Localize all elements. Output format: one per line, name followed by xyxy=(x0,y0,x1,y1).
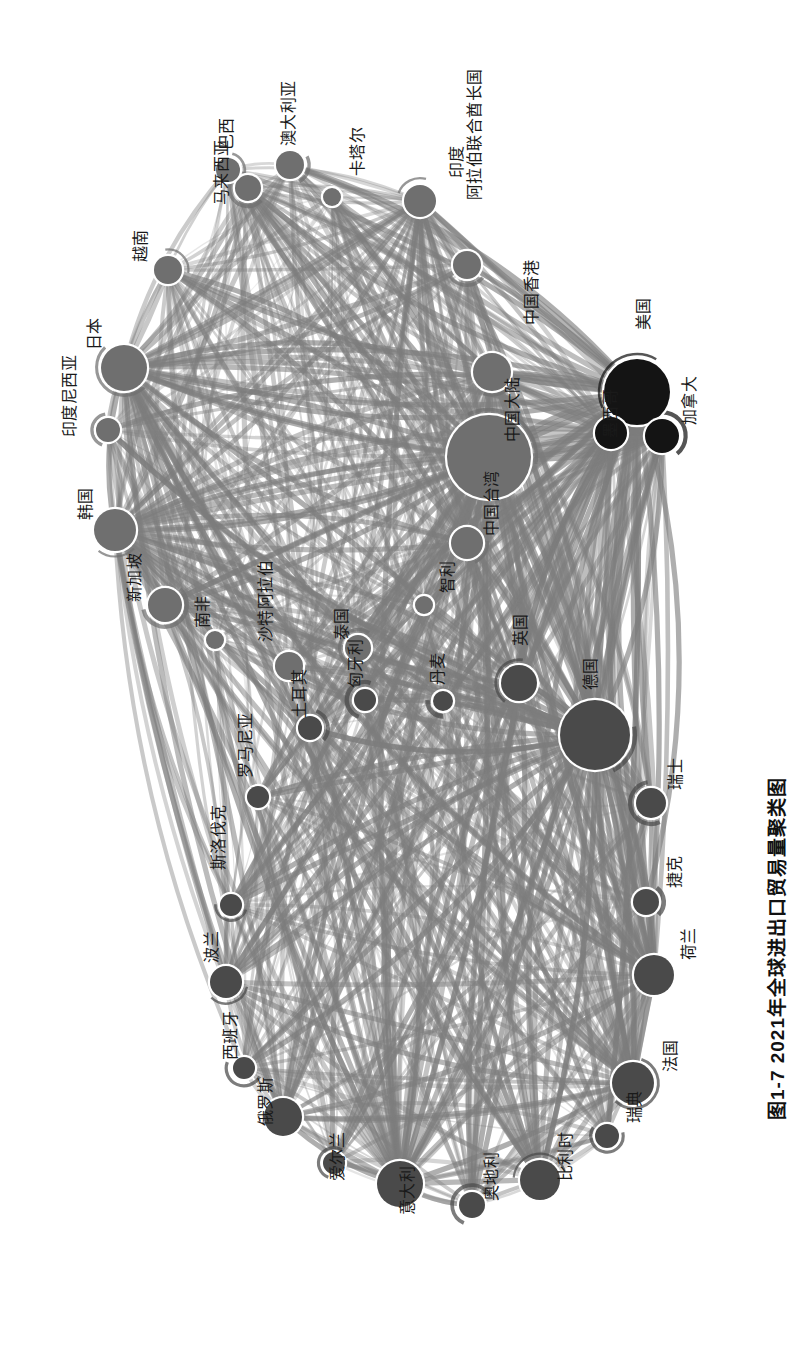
graph-node[interactable]: 南非 xyxy=(206,631,224,649)
node-label-34: 比利时 xyxy=(558,1132,574,1182)
node-label-11: 南非 xyxy=(195,595,211,628)
graph-node[interactable]: 丹麦 xyxy=(433,691,453,711)
node-label-13: 泰国 xyxy=(334,607,350,640)
node-label-2: 澳大利亚 xyxy=(281,80,297,146)
node-label-39: 西班牙 xyxy=(223,1011,239,1061)
graph-node[interactable]: 英国 xyxy=(501,665,537,701)
node-label-27: 波兰 xyxy=(204,930,220,963)
node-label-8: 印度尼西亚 xyxy=(62,355,78,438)
graph-node[interactable]: 匈牙利 xyxy=(354,689,376,711)
graph-node[interactable]: 印度 xyxy=(404,185,436,217)
node-label-36: 意大利 xyxy=(400,1166,416,1216)
node-label-24: 土耳其 xyxy=(292,669,308,719)
graph-node[interactable]: 新加坡 xyxy=(148,588,182,622)
node-label-20: 墨西哥 xyxy=(603,389,619,439)
node-label-15: 中国香港 xyxy=(524,259,540,325)
node-label-6: 越南 xyxy=(133,229,149,262)
graph-node[interactable]: 奥地利 xyxy=(459,1192,485,1218)
node-label-7: 日本 xyxy=(87,317,103,350)
graph-node[interactable]: 斯洛伐克 xyxy=(220,894,242,916)
figure-caption: 图1-7 2021年全球进出口贸易量聚类图 xyxy=(762,777,789,1120)
graph-node[interactable]: 越南 xyxy=(154,256,182,284)
graph-node[interactable]: 波兰 xyxy=(210,966,242,998)
graph-node[interactable]: 罗马尼亚 xyxy=(247,786,269,808)
node-label-10: 新加坡 xyxy=(127,553,143,603)
node-label-35: 奥地利 xyxy=(484,1152,500,1202)
node-label-9: 韩国 xyxy=(78,487,94,520)
node-label-25: 罗马尼亚 xyxy=(238,712,254,778)
node-label-17: 智利 xyxy=(440,560,456,593)
graph-node[interactable]: 卡塔尔 xyxy=(323,188,341,206)
node-label-22: 丹麦 xyxy=(430,652,446,685)
node-label-33: 瑞典 xyxy=(627,1090,643,1123)
graph-node[interactable]: 瑞典 xyxy=(595,1124,619,1148)
graph-node[interactable]: 印度尼西亚 xyxy=(96,418,120,442)
node-label-3: 卡塔尔 xyxy=(350,127,366,177)
node-label-5: 阿拉伯联合酋长国 xyxy=(467,68,483,200)
node-label-31: 荷兰 xyxy=(681,927,697,960)
graph-node[interactable]: 中国台湾 xyxy=(451,527,483,559)
node-label-18: 美国 xyxy=(636,297,652,330)
graph-node[interactable]: 捷克 xyxy=(633,889,659,915)
node-label-38: 俄罗斯 xyxy=(258,1077,274,1127)
node-label-29: 瑞士 xyxy=(668,757,684,790)
graph-node[interactable]: 韩国 xyxy=(94,509,136,551)
node-label-23: 匈牙利 xyxy=(348,639,364,689)
graph-node[interactable]: 德国 xyxy=(560,700,630,770)
graph-node[interactable]: 瑞士 xyxy=(636,788,666,818)
graph-node[interactable]: 比利时 xyxy=(520,1160,560,1200)
graph-node[interactable]: 加拿大 xyxy=(645,419,679,453)
node-label-4: 印度 xyxy=(449,145,465,178)
graph-node[interactable]: 日本 xyxy=(101,345,147,391)
node-label-28: 德国 xyxy=(583,657,599,690)
graph-node[interactable]: 西班牙 xyxy=(233,1057,255,1079)
node-label-1: 巴西 xyxy=(219,117,235,150)
node-label-16: 中国台湾 xyxy=(484,470,500,536)
node-label-30: 捷克 xyxy=(667,855,683,888)
node-label-21: 英国 xyxy=(513,613,529,646)
graph-node[interactable]: 阿拉伯联合酋长国 xyxy=(453,251,481,279)
node-label-19: 加拿大 xyxy=(682,376,698,426)
graph-node[interactable]: 智利 xyxy=(415,596,433,614)
graph-node[interactable]: 荷兰 xyxy=(634,955,674,995)
graph-node[interactable]: 澳大利亚 xyxy=(276,151,304,179)
node-label-12: 沙特阿拉伯 xyxy=(258,560,274,643)
node-label-14: 中国大陆 xyxy=(505,376,521,442)
node-label-32: 法国 xyxy=(663,1039,679,1072)
node-label-37: 爱尔兰 xyxy=(330,1132,346,1182)
node-label-26: 斯洛伐克 xyxy=(211,804,227,870)
graph-node[interactable]: 土耳其 xyxy=(298,716,322,740)
